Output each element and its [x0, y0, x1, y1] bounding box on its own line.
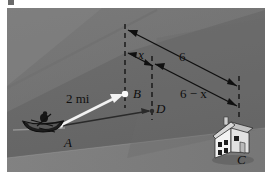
dimension-label-x: x	[138, 48, 144, 61]
point-label-c: C	[237, 153, 246, 166]
point-label-b: B	[133, 87, 141, 100]
point-label-d: D	[156, 102, 165, 115]
point-dot-icon	[122, 91, 128, 97]
figure-root: A B C D 2 mi x 6 6 − x	[0, 0, 273, 176]
dimension-label-6: 6	[179, 50, 186, 63]
diagram-scene: A B C D 2 mi x 6 6 − x	[7, 8, 265, 172]
dimension-label-6-minus-x: 6 − x	[180, 87, 207, 100]
corner-mark-icon	[8, 0, 14, 5]
point-dot-icon	[150, 109, 154, 113]
point-label-a: A	[64, 136, 72, 149]
distance-label-2mi: 2 mi	[66, 92, 89, 105]
